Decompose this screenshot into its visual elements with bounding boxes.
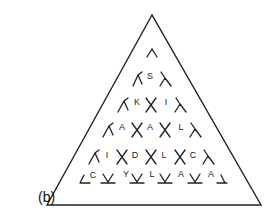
letter: L xyxy=(149,169,154,179)
junction-glyph xyxy=(89,150,99,164)
junction-glyph xyxy=(146,98,156,112)
junction-glyph xyxy=(175,98,186,112)
letter: A xyxy=(147,122,153,132)
junction-glyph xyxy=(117,150,127,164)
junction-glyph xyxy=(103,123,113,137)
junction-glyph xyxy=(190,123,201,137)
letter: S xyxy=(147,71,153,81)
junction-glyph xyxy=(158,174,172,183)
junction-glyph xyxy=(130,174,144,183)
junction-glyph xyxy=(80,175,90,183)
junction-glyph xyxy=(118,98,128,112)
junction-glyph xyxy=(160,123,170,137)
letter: C xyxy=(90,170,97,180)
junction-glyph xyxy=(101,174,115,183)
triangle-diagram: S K I A A L I D L C C Y L A A (b) xyxy=(0,0,277,218)
letter: I xyxy=(106,150,109,160)
letter: L xyxy=(161,150,166,160)
panel-label: (b) xyxy=(38,189,55,205)
letter: A xyxy=(119,122,125,132)
junction-glyph xyxy=(132,123,142,137)
junction-glyph xyxy=(133,72,142,86)
junction-glyph xyxy=(203,150,214,164)
letter: A xyxy=(208,169,214,179)
junction-glyph xyxy=(175,150,185,164)
junction-glyph xyxy=(217,175,227,183)
junction-glyph xyxy=(160,72,171,86)
letter: L xyxy=(178,122,183,132)
junction-glyph xyxy=(188,174,202,183)
junction-glyph xyxy=(146,150,156,164)
letter: A xyxy=(178,169,184,179)
letter: I xyxy=(165,97,168,107)
letter: Y xyxy=(123,169,129,179)
letter: K xyxy=(134,97,140,107)
letter: D xyxy=(132,150,139,160)
letter: C xyxy=(190,150,197,160)
junction-glyph xyxy=(147,49,157,57)
